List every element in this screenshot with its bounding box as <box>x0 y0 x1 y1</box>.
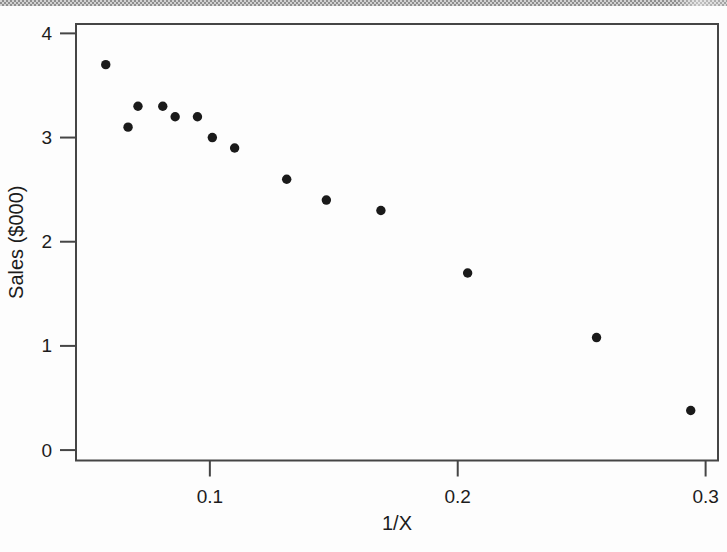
data-point <box>133 102 142 111</box>
plot-canvas: 012340.10.20.31/XSales ($000) <box>0 0 727 552</box>
data-point <box>158 102 167 111</box>
scanned-figure-page: 012340.10.20.31/XSales ($000) <box>0 0 727 552</box>
plot-frame <box>76 24 718 461</box>
data-point <box>463 268 472 277</box>
data-point <box>592 333 601 342</box>
data-point <box>230 143 239 152</box>
y-tick-label: 2 <box>41 231 52 252</box>
x-tick-label: 0.3 <box>692 486 718 507</box>
data-point <box>322 195 331 204</box>
data-point <box>282 175 291 184</box>
x-axis-title: 1/X <box>382 512 412 534</box>
data-point <box>376 206 385 215</box>
y-tick-label: 3 <box>41 127 52 148</box>
data-point <box>170 112 179 121</box>
x-tick-label: 0.2 <box>445 486 471 507</box>
data-point <box>686 406 695 415</box>
data-point <box>208 133 217 142</box>
x-tick-label: 0.1 <box>197 486 223 507</box>
data-point <box>123 122 132 131</box>
data-point <box>193 112 202 121</box>
y-tick-label: 4 <box>41 23 52 44</box>
data-point <box>101 60 110 69</box>
y-axis-title: Sales ($000) <box>5 186 27 299</box>
sales-vs-inverse-x-scatter-plot: 012340.10.20.31/XSales ($000) <box>0 0 727 552</box>
y-tick-label: 1 <box>41 335 52 356</box>
y-tick-label: 0 <box>41 440 52 461</box>
